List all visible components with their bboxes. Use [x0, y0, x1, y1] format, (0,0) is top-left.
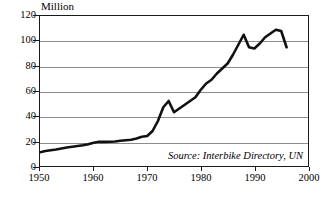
- plot-area: Source: Interbike Directory, UN: [39, 15, 309, 167]
- x-tick-mark-1990: [255, 167, 256, 171]
- source-annotation: Source: Interbike Directory, UN: [168, 150, 303, 162]
- x-tick-label-1960: 1960: [73, 172, 113, 183]
- x-tick-mark-1950: [39, 167, 40, 171]
- y-tick-label-0: 0: [2, 162, 36, 172]
- x-tick-label-1990: 1990: [235, 172, 275, 183]
- x-axis-tick-group: 195019601970198019902000: [39, 167, 309, 197]
- y-tick-label-20: 20: [2, 137, 36, 147]
- y-tick-label-60: 60: [2, 86, 36, 96]
- x-tick-label-2000: 2000: [289, 172, 322, 183]
- x-tick-label-1980: 1980: [181, 172, 221, 183]
- x-tick-mark-2000: [309, 167, 310, 171]
- x-tick-label-1970: 1970: [127, 172, 167, 183]
- y-tick-label-120: 120: [2, 10, 36, 20]
- x-tick-label-1950: 1950: [19, 172, 59, 183]
- bicycle-production-line-chart: Million 020406080100120 Source: Interbik…: [0, 0, 322, 209]
- y-tick-label-40: 40: [2, 111, 36, 121]
- series-line-0: [40, 30, 287, 153]
- x-tick-mark-1960: [93, 167, 94, 171]
- series-line-group: [40, 16, 308, 166]
- y-axis-unit-label: Million: [41, 0, 74, 12]
- x-tick-mark-1970: [147, 167, 148, 171]
- y-axis-tick-group: 020406080100120: [0, 15, 36, 167]
- y-tick-label-80: 80: [2, 61, 36, 71]
- y-tick-label-100: 100: [2, 35, 36, 45]
- x-tick-mark-1980: [201, 167, 202, 171]
